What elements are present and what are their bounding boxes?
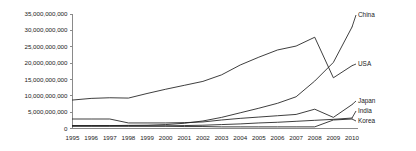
x-axis-tick-label: 1997: [103, 134, 117, 141]
series-leader-china: [352, 15, 356, 27]
x-axis-tick-label: 2010: [345, 134, 359, 141]
series-leader-usa: [352, 64, 356, 66]
x-axis-tick-label: 2002: [196, 134, 210, 141]
x-axis-tick-label: 2003: [215, 134, 229, 141]
x-axis-tick-label: 1999: [140, 134, 154, 141]
x-axis-tick-label: 2004: [233, 134, 247, 141]
y-axis-tick-label: 0: [64, 125, 68, 132]
x-axis-tick-label: 1995: [66, 134, 80, 141]
y-axis-tick-label: 20,000,000,000: [24, 59, 68, 66]
series-line-usa: [73, 37, 353, 100]
chart-canvas: 05,000,000,00010,000,000,00015,000,000,0…: [0, 0, 416, 151]
series-label-usa: USA: [358, 60, 372, 67]
series-lines-group: [73, 15, 357, 127]
y-axis-tick-label: 10,000,000,000: [24, 92, 68, 99]
x-axis-tick-label: 2000: [159, 134, 173, 141]
series-labels-group: USAChinaJapanIndiaKorea: [358, 11, 376, 124]
series-leader-india: [352, 111, 356, 118]
y-axis-tick-label: 15,000,000,000: [24, 76, 68, 83]
x-axis-group: 1995199619971998199920002001200220032004…: [66, 129, 360, 141]
y-axis-tick-label: 5,000,000,000: [28, 108, 68, 115]
x-axis-tick-label: 2001: [177, 134, 191, 141]
series-label-japan: Japan: [358, 97, 376, 105]
series-label-china: China: [358, 11, 375, 18]
x-axis-tick-labels: 1995199619971998199920002001200220032004…: [66, 134, 360, 141]
x-axis-tick-label: 1998: [122, 134, 136, 141]
x-axis-tick-label: 2009: [326, 134, 340, 141]
y-axis-group: 05,000,000,00010,000,000,00015,000,000,0…: [24, 10, 72, 132]
y-axis-tick-label: 30,000,000,000: [24, 26, 68, 33]
series-leader-japan: [352, 101, 356, 105]
line-chart: 05,000,000,00010,000,000,00015,000,000,0…: [0, 0, 416, 151]
x-axis-tick-label: 2005: [252, 134, 266, 141]
x-axis-tick-label: 2007: [289, 134, 303, 141]
series-leader-korea: [352, 119, 356, 121]
x-axis-tick-label: 2008: [308, 134, 322, 141]
series-label-india: India: [358, 107, 372, 114]
y-axis-tick-label: 35,000,000,000: [24, 10, 68, 17]
y-axis-tick-label: 25,000,000,000: [24, 43, 68, 50]
x-axis-tick-label: 1996: [84, 134, 98, 141]
x-axis-tick-label: 2006: [271, 134, 285, 141]
series-label-korea: Korea: [358, 117, 375, 124]
y-axis-tick-labels: 05,000,000,00010,000,000,00015,000,000,0…: [24, 10, 68, 132]
